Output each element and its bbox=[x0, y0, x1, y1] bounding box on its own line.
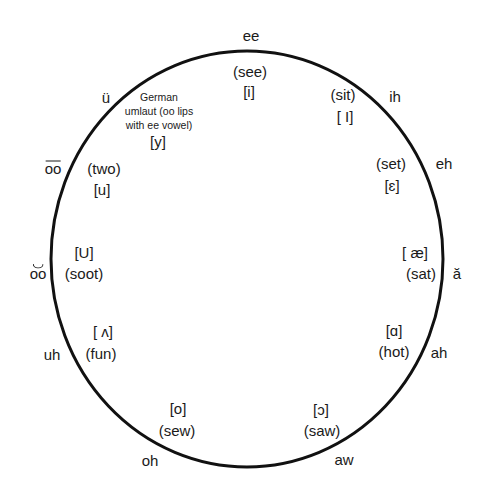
vowel-ah-example-word: (hot) bbox=[379, 343, 410, 360]
vowel-oh-example-word: (sew) bbox=[159, 422, 196, 439]
vowel-oh-ipa: [o] bbox=[170, 400, 187, 417]
vowel-oh-outer-label: oh bbox=[142, 452, 159, 469]
vowel-ih-outer-label: ih bbox=[389, 88, 401, 105]
vowel-a-short-ipa: [ æ] bbox=[402, 244, 428, 261]
umlaut-note-line-3: with ee vowel) bbox=[126, 119, 193, 132]
vowel-ih-ipa: [ I] bbox=[337, 108, 354, 125]
vowel-aw-outer-label: aw bbox=[334, 451, 353, 468]
vowel-ah-ipa: [ɑ] bbox=[386, 322, 403, 339]
vowel-oo-short-ipa: [U] bbox=[74, 244, 93, 261]
vowel-oo-long-outer-label: oo bbox=[45, 160, 62, 177]
vowel-aw-example-word: (saw) bbox=[304, 422, 341, 439]
vowel-eh-ipa: [ɛ] bbox=[384, 177, 399, 194]
vowel-ah-outer-label: ah bbox=[431, 344, 448, 361]
breve-mark-icon: oo bbox=[30, 265, 47, 282]
vowel-ih-example-word: (sit) bbox=[331, 86, 356, 103]
vowel-oo-long-example-word: (two) bbox=[87, 160, 120, 177]
vowel-eh-example-word: (set) bbox=[376, 155, 406, 172]
umlaut-note-line-2: umlaut (oo lips bbox=[125, 105, 193, 118]
vowel-uh-example-word: (fun) bbox=[86, 345, 117, 362]
vowel-ee-outer-label: ee bbox=[243, 27, 260, 44]
vowel-oo-short-outer-label: oo bbox=[30, 265, 47, 282]
vowel-oo-long-ipa: [u] bbox=[94, 181, 111, 198]
vowel-oo-short-example-word: (soot) bbox=[65, 265, 103, 282]
vowel-u-umlaut-outer-label: ü bbox=[102, 89, 110, 106]
vowel-eh-outer-label: eh bbox=[436, 155, 453, 172]
vowel-aw-ipa: [ɔ] bbox=[313, 401, 329, 418]
vowel-u-umlaut-ipa: [y] bbox=[150, 133, 166, 150]
vowel-uh-ipa: [ ʌ] bbox=[93, 323, 113, 340]
vowel-a-short-example-word: (sat) bbox=[406, 265, 436, 282]
vowel-ee-example-word: (see) bbox=[233, 63, 267, 80]
umlaut-note-line-1: German bbox=[140, 91, 178, 104]
vowel-a-short-outer-label: ă bbox=[453, 265, 461, 282]
vowel-uh-outer-label: uh bbox=[44, 346, 61, 363]
vowel-circle-diagram: ee (see) [i] ih (sit) [ I] eh (set) [ɛ] … bbox=[0, 0, 484, 492]
vowel-ee-ipa: [i] bbox=[243, 83, 255, 100]
macron-mark-icon: oo bbox=[45, 160, 62, 177]
